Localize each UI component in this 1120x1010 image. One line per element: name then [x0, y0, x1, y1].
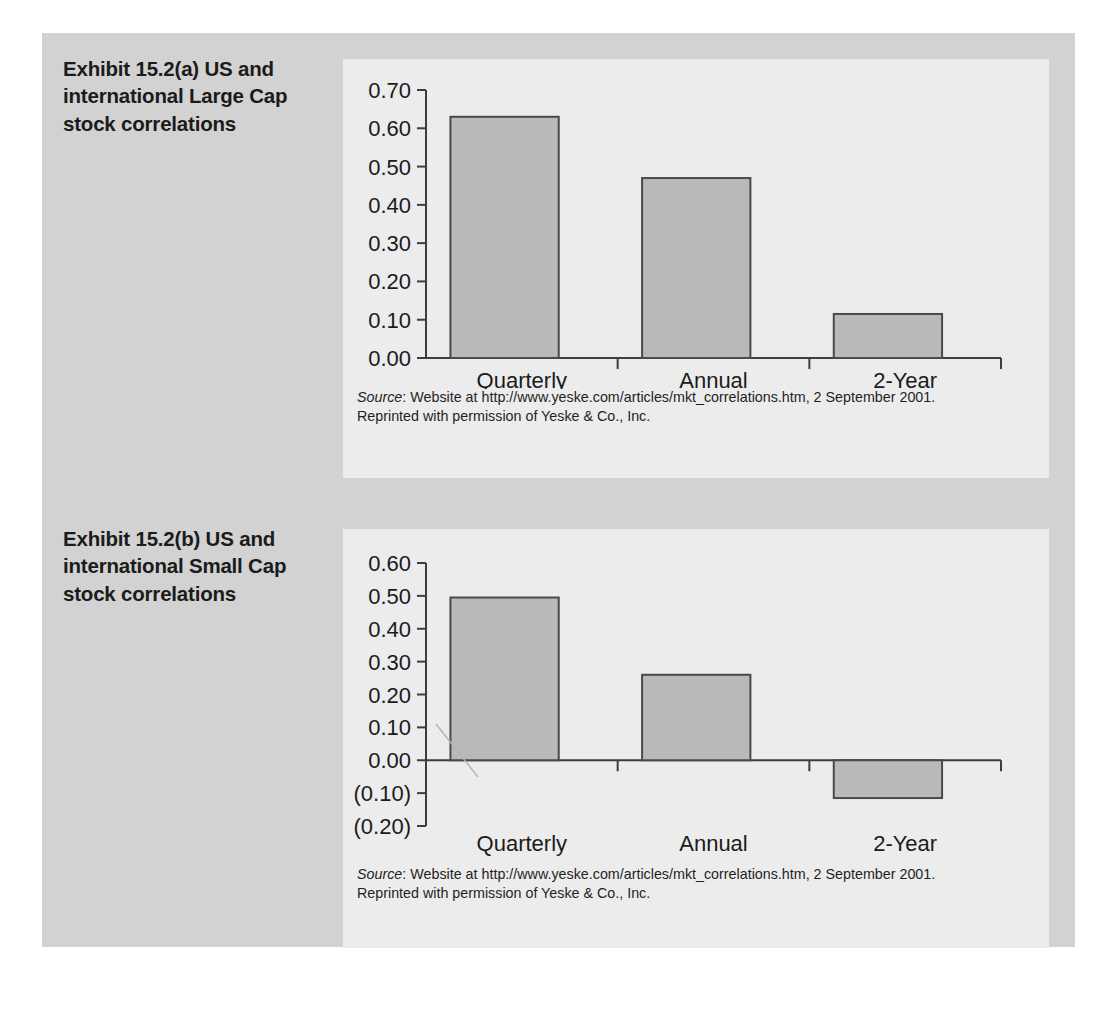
exhibit-a-title: Exhibit 15.2(a) US and international Lar… — [63, 55, 338, 137]
exhibit-a-chart-card: 0.000.100.200.300.400.500.600.70Quarterl… — [343, 59, 1049, 478]
bar-annual — [642, 178, 750, 358]
exhibit-a-plot: 0.000.100.200.300.400.500.600.70Quarterl… — [343, 59, 1049, 389]
y-axis-tick-label: 0.00 — [368, 346, 411, 371]
y-axis-tick-label: 0.40 — [368, 193, 411, 218]
y-axis-tick-label: 0.30 — [368, 650, 411, 675]
chart-svg: (0.20)(0.10)0.000.100.200.300.400.500.60… — [343, 529, 1049, 859]
bar-2-year — [834, 760, 942, 798]
exhibit-b-plot: (0.20)(0.10)0.000.100.200.300.400.500.60… — [343, 529, 1049, 859]
bar-2-year — [834, 314, 942, 358]
x-axis-category-label: Quarterly — [477, 368, 567, 389]
chart-svg: 0.000.100.200.300.400.500.600.70Quarterl… — [343, 59, 1049, 389]
y-axis-tick-label: 0.00 — [368, 748, 411, 773]
source-text: : Website at http://www.yeske.com/articl… — [402, 389, 935, 405]
y-axis-tick-label: (0.20) — [354, 814, 411, 839]
exhibit-15-2a: Exhibit 15.2(a) US and international Lar… — [42, 33, 1075, 478]
source-label: Source — [357, 389, 402, 405]
x-axis-category-label: 2-Year — [873, 368, 937, 389]
y-axis-tick-label: 0.50 — [368, 584, 411, 609]
y-axis-tick-label: 0.10 — [368, 715, 411, 740]
exhibit-a-source-note: Source: Website at http://www.yeske.com/… — [357, 388, 1029, 426]
y-axis-tick-label: 0.70 — [368, 78, 411, 103]
bar-annual — [642, 675, 750, 760]
y-axis-tick-label: 0.20 — [368, 683, 411, 708]
y-axis-tick-label: 0.40 — [368, 617, 411, 642]
bar-quarterly — [450, 598, 558, 761]
y-axis-tick-label: 0.20 — [368, 269, 411, 294]
source-reprint-text: Reprinted with permission of Yeske & Co.… — [357, 885, 650, 901]
source-text: : Website at http://www.yeske.com/articl… — [402, 866, 935, 882]
y-axis-tick-label: 0.50 — [368, 155, 411, 180]
source-label: Source — [357, 866, 402, 882]
source-reprint-text: Reprinted with permission of Yeske & Co.… — [357, 408, 650, 424]
x-axis-category-label: Annual — [679, 831, 748, 856]
y-axis-tick-label: 0.10 — [368, 308, 411, 333]
y-axis-tick-label: 0.30 — [368, 231, 411, 256]
y-axis-tick-label: (0.10) — [354, 781, 411, 806]
exhibit-15-2b: Exhibit 15.2(b) US and international Sma… — [42, 503, 1075, 947]
x-axis-category-label: 2-Year — [873, 831, 937, 856]
exhibit-b-chart-card: (0.20)(0.10)0.000.100.200.300.400.500.60… — [343, 529, 1049, 948]
bar-quarterly — [450, 117, 558, 358]
exhibit-b-source-note: Source: Website at http://www.yeske.com/… — [357, 865, 1029, 903]
y-axis-tick-label: 0.60 — [368, 116, 411, 141]
page-panel: Exhibit 15.2(a) US and international Lar… — [42, 33, 1075, 947]
x-axis-category-label: Quarterly — [477, 831, 567, 856]
y-axis-tick-label: 0.60 — [368, 551, 411, 576]
x-axis-category-label: Annual — [679, 368, 748, 389]
exhibit-b-title: Exhibit 15.2(b) US and international Sma… — [63, 525, 338, 607]
